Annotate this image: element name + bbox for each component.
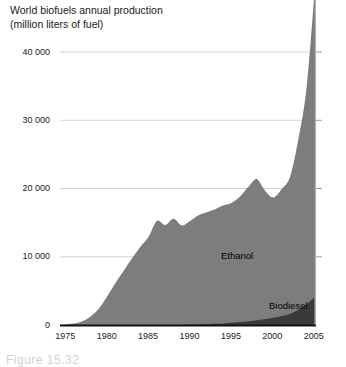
y-tick-label-10000: 10 000 (4, 251, 50, 261)
figure-caption: Figure 15.32 (6, 353, 79, 367)
y-tick-label-20000: 20 000 (4, 183, 50, 193)
series-label-biodiesel: Biodiesel (269, 300, 308, 311)
x-tick-label-1980: 1980 (87, 331, 127, 341)
x-tick-label-1985: 1985 (128, 331, 168, 341)
area-ethanol (57, 0, 315, 326)
y-tick-label-0: 0 (4, 320, 50, 330)
x-tick-label-1995: 1995 (211, 331, 251, 341)
x-tick-label-2000: 2000 (252, 331, 292, 341)
y-tick-label-30000: 30 000 (4, 115, 50, 125)
x-tick-label-1975: 1975 (45, 331, 85, 341)
series-areas (57, 0, 315, 326)
x-tick-label-1990: 1990 (170, 331, 210, 341)
y-tick-label-40000: 40 000 (4, 47, 50, 57)
series-label-ethanol: Ethanol (221, 250, 253, 261)
x-tick-label-2005: 2005 (294, 331, 334, 341)
right-axis-ticks (316, 52, 322, 257)
